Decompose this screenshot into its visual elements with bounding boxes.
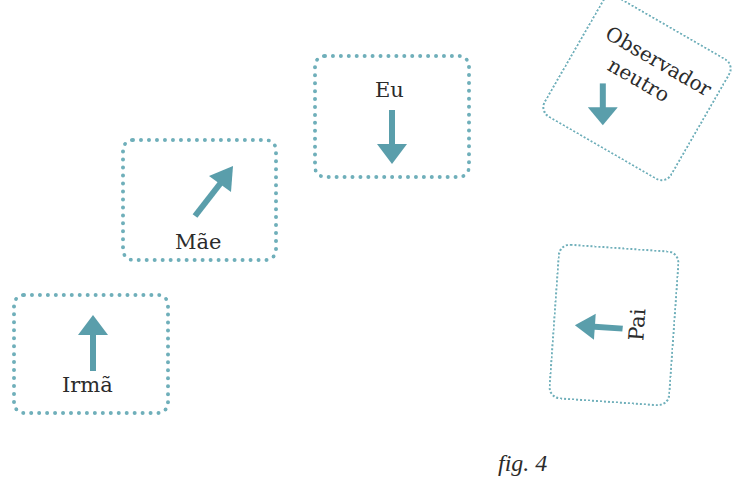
arrow-up-right-icon: [189, 162, 239, 220]
card-pai: Pai: [548, 243, 681, 407]
label-eu: Eu: [375, 78, 404, 102]
card-mae: Mãe: [121, 138, 278, 262]
arrow-up-icon: [78, 315, 108, 371]
arrow-left-icon: [574, 310, 624, 343]
card-eu: Eu: [313, 54, 471, 179]
figure-caption: fig. 4: [498, 450, 547, 477]
card-irma: Irmã: [12, 293, 170, 415]
label-irma: Irmã: [62, 373, 113, 397]
arrow-down-icon: [377, 110, 407, 166]
arrow-down-left-icon: [588, 83, 618, 127]
label-pai: Pai: [624, 308, 650, 342]
label-mae: Mãe: [175, 230, 221, 254]
card-observador-neutro: Observador neutro: [538, 0, 735, 186]
